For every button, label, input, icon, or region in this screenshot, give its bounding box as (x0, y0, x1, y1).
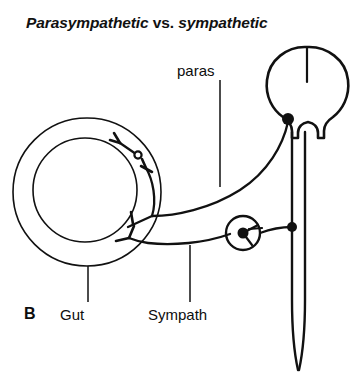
label-paras: paras (177, 62, 215, 79)
gut-outer-wall (13, 118, 161, 266)
figure-panel-b: Parasympathetic vs. sympathetic (0, 0, 358, 383)
sympathetic-ganglion-dendrite-right (249, 228, 262, 229)
parasympathetic-postganglionic-fibre (120, 143, 135, 153)
spinal-cord-left-edge (292, 132, 298, 370)
parasympathetic-preganglionic-soma (282, 113, 294, 125)
label-sympath: Sympath (148, 306, 207, 323)
label-gut: Gut (60, 306, 84, 323)
sympathetic-terminal-fork-lower (116, 238, 129, 241)
anatomy-diagram (0, 0, 358, 383)
parasympathetic-terminal-hook-distal (131, 212, 133, 224)
panel-letter: B (24, 305, 36, 323)
sympathetic-preganglionic-soma (287, 222, 297, 232)
sympathetic-ganglion-soma (238, 228, 249, 239)
spinal-cord-right-edge (299, 132, 305, 370)
parasympathetic-fibre-in-gut-wall (146, 168, 154, 216)
sympathetic-terminal-fork-upper (129, 226, 134, 238)
gut-inner-wall (33, 138, 137, 242)
